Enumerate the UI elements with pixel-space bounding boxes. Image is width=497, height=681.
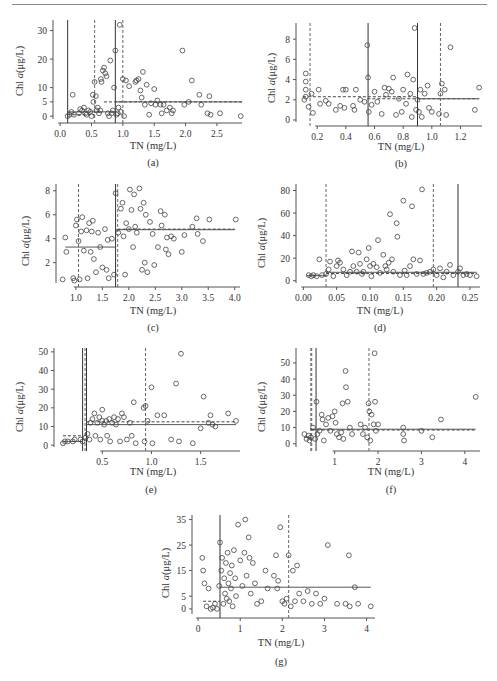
y-tick-label: 5 xyxy=(181,592,186,602)
data-point xyxy=(248,591,253,596)
y-tick-label: 0 xyxy=(181,604,186,614)
data-point xyxy=(243,517,248,522)
x-tick-label: 4 xyxy=(364,624,369,634)
data-point xyxy=(202,581,207,586)
data-point xyxy=(274,553,279,558)
data-point xyxy=(276,578,281,583)
data-point xyxy=(206,586,211,591)
data-point xyxy=(322,596,327,601)
data-point xyxy=(217,584,222,589)
data-point xyxy=(263,568,268,573)
data-point xyxy=(213,601,218,606)
data-point xyxy=(318,601,323,606)
data-point xyxy=(225,550,230,555)
data-point xyxy=(221,601,226,606)
data-point xyxy=(356,601,361,606)
y-tick-label: 35 xyxy=(177,515,187,525)
data-point xyxy=(253,581,258,586)
x-tick-label: 2 xyxy=(280,624,285,634)
data-point xyxy=(215,606,220,611)
data-point xyxy=(250,561,255,566)
data-point xyxy=(244,573,249,578)
data-point xyxy=(200,555,205,560)
data-point xyxy=(242,550,247,555)
data-point xyxy=(290,568,295,573)
data-point xyxy=(246,535,251,540)
data-point xyxy=(297,591,302,596)
y-tick-label: 15 xyxy=(177,566,187,576)
data-point xyxy=(247,555,252,560)
x-tick-label: 0 xyxy=(196,624,201,634)
data-point xyxy=(228,571,233,576)
data-point xyxy=(346,553,351,558)
data-point xyxy=(284,596,289,601)
data-point xyxy=(229,563,234,568)
data-point xyxy=(222,576,227,581)
caption-g: (g) xyxy=(261,656,301,667)
data-point xyxy=(325,543,330,548)
data-point xyxy=(201,568,206,573)
data-point xyxy=(238,558,243,563)
data-point xyxy=(234,594,239,599)
y-axis-label-g: Chl a(μg/L) xyxy=(160,548,171,598)
data-point xyxy=(314,591,319,596)
data-point xyxy=(347,604,352,609)
data-point xyxy=(272,573,277,578)
data-point xyxy=(259,599,264,604)
data-point xyxy=(309,601,314,606)
data-point xyxy=(230,604,235,609)
x-tick-label: 1 xyxy=(238,624,243,634)
x-axis-label-g: TN (mg/L) xyxy=(221,637,341,648)
y-tick-label: 25 xyxy=(177,541,187,551)
data-point xyxy=(233,576,238,581)
data-point xyxy=(223,591,228,596)
data-point xyxy=(224,561,229,566)
data-point xyxy=(305,589,310,594)
data-point xyxy=(335,601,340,606)
data-point xyxy=(232,548,237,553)
data-point xyxy=(293,599,298,604)
data-point xyxy=(368,604,373,609)
data-point xyxy=(295,563,300,568)
data-point xyxy=(226,581,231,586)
data-point xyxy=(301,599,306,604)
data-point xyxy=(236,522,241,527)
panel-g: 0123405152535 Chl a(μg/L) TN (mg/L) (g) xyxy=(0,0,497,681)
x-tick-label: 3 xyxy=(322,624,327,634)
scatter-plot-g: 0123405152535 xyxy=(0,0,497,681)
data-point xyxy=(278,525,283,530)
